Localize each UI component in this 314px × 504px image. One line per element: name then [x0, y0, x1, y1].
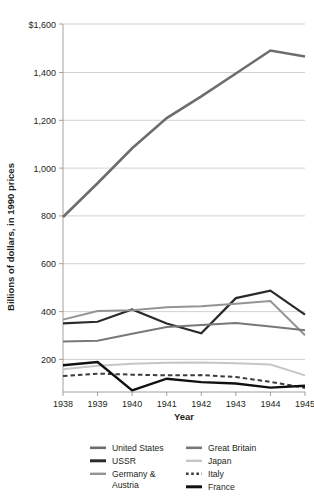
legend-label-japan: Japan: [208, 456, 232, 466]
legend-label-italy: Italy: [208, 469, 224, 479]
y-tick-label-1000: 1,000: [33, 164, 56, 174]
y-tick-label-1600: $1,600: [28, 20, 56, 30]
y-axis-title: Billions of dollars, in 1990 prices: [5, 163, 16, 311]
legend-label-germany-austria: Germany &: [112, 469, 156, 479]
y-tick-label-800: 800: [41, 211, 56, 221]
x-tick-label-1939: 1939: [88, 399, 108, 409]
chart-figure: Billions of dollars, in 1990 prices: [0, 0, 314, 504]
legend-label-france: France: [208, 482, 235, 492]
y-tick-label-200: 200: [41, 355, 56, 365]
y-tick-label-1400: 1,400: [33, 68, 56, 78]
y-tick-label-1200: 1,200: [33, 116, 56, 126]
y-tick-label-600: 600: [41, 259, 56, 269]
x-tick-label-1944: 1944: [260, 399, 280, 409]
x-tick-label-1940: 1940: [122, 399, 142, 409]
y-tick-label-400: 400: [41, 307, 56, 317]
x-tick-label-1945: 1945: [295, 399, 314, 409]
x-tick-label-1941: 1941: [157, 399, 177, 409]
x-tick-label-1938: 1938: [53, 399, 73, 409]
legend-label-germany-austria-line2: Austria: [112, 480, 139, 490]
x-tick-label-1942: 1942: [191, 399, 211, 409]
war-expenditure-line-chart: Billions of dollars, in 1990 prices: [0, 0, 314, 504]
legend-label-ussr: USSR: [112, 456, 136, 466]
x-axis-title: Year: [174, 411, 194, 422]
legend-label-great-britain: Great Britain: [208, 443, 256, 453]
legend-label-united-states: United States: [112, 443, 164, 453]
x-tick-label-1943: 1943: [226, 399, 246, 409]
